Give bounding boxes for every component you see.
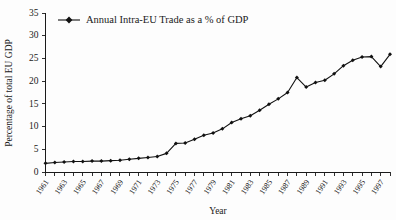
line-chart: 05101520253035 1961196319651967196919711… [0,0,396,220]
legend-label-intra-eu-trade: Annual Intra-EU Trade as a % of GDP [86,14,249,25]
data-point [146,155,150,159]
data-point [211,131,215,135]
x-axis-group: 1961196319651967196919711973197519771979… [34,172,390,196]
x-tick-label-1993: 1993 [332,178,349,196]
x-tick-label-1981: 1981 [220,178,237,196]
y-tick-label-0: 0 [34,167,39,177]
data-point [360,55,364,59]
x-tick-label-1975: 1975 [164,178,181,196]
x-tick-label-1977: 1977 [183,178,200,196]
data-point [127,157,131,161]
y-axis-group: 05101520253035 [29,8,46,177]
chart-legend: Annual Intra-EU Trade as a % of GDP [58,14,249,25]
y-tick-label-10: 10 [29,121,39,131]
x-tick-label-1971: 1971 [127,178,144,196]
y-tick-label-15: 15 [29,99,39,109]
x-tick-label-1997: 1997 [369,178,386,196]
legend-marker-sample [66,17,73,24]
data-point [44,161,48,165]
data-point [53,160,57,164]
x-tick-label-1979: 1979 [202,178,219,196]
data-point [71,160,75,164]
data-point [118,158,122,162]
series-line-intra-eu-trade [46,54,391,163]
x-tick-label-group: 1961196319651967196919711973197519771979… [34,178,386,196]
x-tick-label-1973: 1973 [146,178,163,196]
y-tick-label-20: 20 [29,76,39,86]
y-tick-label-group: 05101520253035 [29,8,39,177]
chart-figure: 05101520253035 1961196319651967196919711… [0,0,396,220]
data-series-group [44,52,393,165]
y-tick-label-35: 35 [29,8,39,18]
x-tick-label-1963: 1963 [53,178,70,196]
x-tick-label-1985: 1985 [258,178,275,196]
x-tick-label-1965: 1965 [71,178,88,196]
data-point [90,159,94,163]
data-point [81,160,85,164]
x-tick-label-1991: 1991 [313,178,330,196]
x-tick-label-1969: 1969 [109,178,126,196]
x-tick-label-1961: 1961 [34,178,51,196]
data-point [239,117,243,121]
y-axis-label: Percentage of total EU GDP [4,39,14,147]
x-tick-label-1987: 1987 [276,178,293,196]
data-point [62,160,66,164]
x-tick-label-1967: 1967 [90,178,107,196]
x-tick-label-1983: 1983 [239,178,256,196]
x-tick-label-1989: 1989 [295,178,312,196]
data-point [314,81,318,85]
data-point [202,133,206,137]
data-point [192,137,196,141]
data-point [155,155,159,159]
data-point [137,156,141,160]
y-tick-label-30: 30 [29,30,39,40]
y-tick-group [42,13,46,172]
data-point [99,159,103,163]
y-tick-label-5: 5 [34,144,39,154]
x-axis-label: Year [209,206,227,216]
data-point [183,141,187,145]
data-point [109,159,113,163]
y-tick-label-25: 25 [29,53,39,63]
x-tick-label-1995: 1995 [351,178,368,196]
